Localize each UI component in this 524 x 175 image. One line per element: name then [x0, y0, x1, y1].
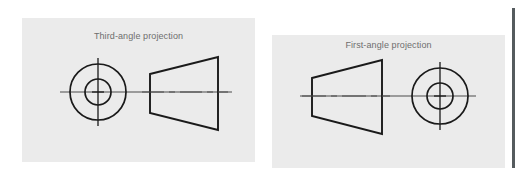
view-side-cone — [142, 57, 228, 130]
view-side-cone — [302, 60, 390, 134]
first-angle-drawing — [272, 35, 505, 168]
cone-outline — [150, 57, 218, 130]
panel-first-angle-projection: First-angle projection — [272, 35, 505, 168]
caption-third-angle: Third-angle projection — [94, 32, 183, 41]
figure-canvas: Third-angle projection First-angle proje… — [0, 0, 524, 175]
cone-outline — [312, 60, 382, 134]
caption-first-angle: First-angle projection — [345, 41, 431, 50]
panel-third-angle-projection: Third-angle projection — [22, 18, 255, 162]
page-edge-rule — [512, 8, 515, 168]
